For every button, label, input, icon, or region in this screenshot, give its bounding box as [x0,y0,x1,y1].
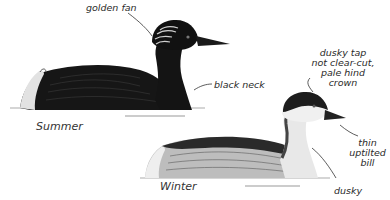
season-label-winter: Winter [160,182,197,192]
annotation-winter-bill: thin uptilted bill [345,138,390,168]
grebe-plumage-illustration: golden fan black neck Summer dusky tap n… [0,0,390,200]
grebe-drawings [0,0,390,200]
annotation-bill-line-3: bill [345,158,390,168]
summer-grebe [10,13,230,116]
annotation-golden-fan: golden fan [86,3,137,13]
annotation-winter-cap: dusky tap not clear-cut, pale hind crown [298,48,388,88]
season-label-summer: Summer [36,122,83,132]
annotation-black-neck: black neck [214,80,265,90]
annotation-cap-line-4: crown [298,78,388,88]
annotation-dusky-neck: dusky [334,186,362,196]
